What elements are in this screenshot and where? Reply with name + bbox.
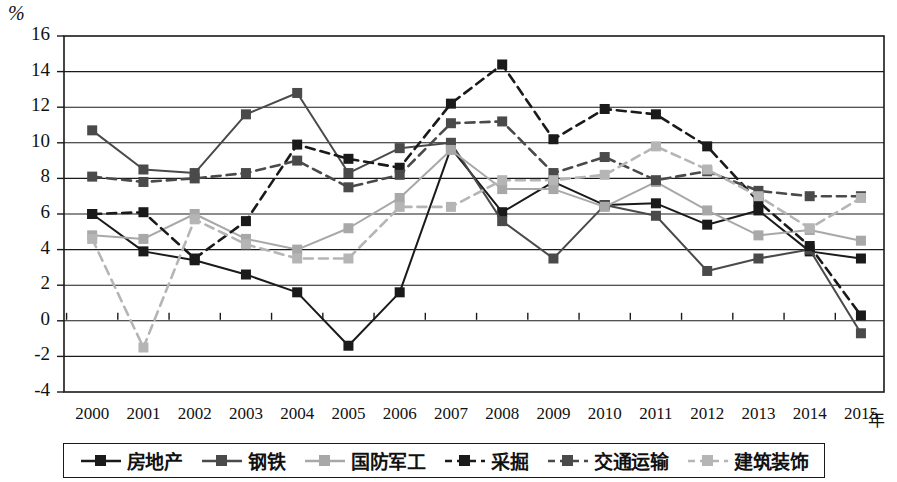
data-point-marker <box>343 168 353 178</box>
data-point-marker <box>343 182 353 192</box>
data-point-marker <box>497 184 507 194</box>
data-point-marker <box>87 125 97 135</box>
data-point-marker <box>651 141 661 151</box>
x-tick-label: 2005 <box>322 404 374 424</box>
data-point-marker <box>138 207 148 217</box>
x-tick-label: 2003 <box>220 404 272 424</box>
data-point-marker <box>395 287 405 297</box>
legend-label: 国防军工 <box>351 447 425 474</box>
x-tick-label: 2007 <box>425 404 477 424</box>
legend-item-4[interactable]: 采掘 <box>444 447 528 474</box>
data-point-marker <box>497 59 507 69</box>
y-tick-label: -4 <box>8 379 50 401</box>
legend-marker-icon <box>80 453 122 469</box>
data-point-marker <box>702 220 712 230</box>
data-point-marker <box>87 234 97 244</box>
data-point-marker <box>753 254 763 264</box>
x-tick-label: 2006 <box>374 404 426 424</box>
y-tick-label: 0 <box>8 308 50 330</box>
data-point-marker <box>395 193 405 203</box>
data-point-marker <box>856 328 866 338</box>
data-point-marker <box>241 109 251 119</box>
data-point-marker <box>651 109 661 119</box>
data-point-marker <box>138 343 148 353</box>
data-point-marker <box>600 202 610 212</box>
x-tick-label: 2004 <box>271 404 323 424</box>
data-point-marker <box>753 191 763 201</box>
legend-square-marker <box>562 455 573 466</box>
x-tick-label: 2001 <box>117 404 169 424</box>
data-point-marker <box>651 211 661 221</box>
data-point-marker <box>292 245 302 255</box>
y-tick-label: 6 <box>8 201 50 223</box>
data-point-marker <box>292 287 302 297</box>
data-point-marker <box>497 116 507 126</box>
x-tick-label: 2010 <box>579 404 631 424</box>
legend-square-marker <box>702 455 713 466</box>
data-point-marker <box>702 205 712 215</box>
legend-marker-icon <box>444 453 486 469</box>
data-point-marker <box>138 234 148 244</box>
data-point-marker <box>702 266 712 276</box>
x-tick-label: 2011 <box>630 404 682 424</box>
data-point-marker <box>548 134 558 144</box>
data-point-marker <box>87 209 97 219</box>
data-point-marker <box>292 156 302 166</box>
chart-legend: 房地产钢铁国防军工采掘交通运输建筑装饰 <box>63 443 825 478</box>
legend-label: 建筑装饰 <box>734 447 808 474</box>
legend-item-5[interactable]: 交通运输 <box>547 447 668 474</box>
x-tick-label: 2012 <box>681 404 733 424</box>
data-point-marker <box>446 202 456 212</box>
data-point-marker <box>395 202 405 212</box>
y-tick-label: 4 <box>8 237 50 259</box>
data-point-marker <box>702 141 712 151</box>
x-tick-label: 2013 <box>732 404 784 424</box>
line-chart-plot <box>0 0 897 440</box>
y-tick-label: 12 <box>8 94 50 116</box>
legend-square-marker <box>459 455 470 466</box>
data-point-marker <box>856 193 866 203</box>
data-point-marker <box>190 173 200 183</box>
data-point-marker <box>138 177 148 187</box>
data-point-marker <box>548 254 558 264</box>
legend-label: 钢铁 <box>248 447 285 474</box>
legend-item-3[interactable]: 国防军工 <box>304 447 425 474</box>
legend-item-1[interactable]: 房地产 <box>80 447 183 474</box>
data-point-marker <box>241 270 251 280</box>
legend-marker-icon <box>201 453 243 469</box>
data-point-marker <box>753 205 763 215</box>
x-tick-label: 2014 <box>784 404 836 424</box>
data-point-marker <box>343 254 353 264</box>
data-point-marker <box>651 175 661 185</box>
legend-square-marker <box>319 455 330 466</box>
data-point-marker <box>87 172 97 182</box>
data-point-marker <box>548 184 558 194</box>
x-tick-label: 2000 <box>66 404 118 424</box>
legend-item-6[interactable]: 建筑装饰 <box>687 447 808 474</box>
data-point-marker <box>395 143 405 153</box>
y-tick-label: 2 <box>8 272 50 294</box>
legend-marker-icon <box>304 453 346 469</box>
legend-square-marker <box>95 455 106 466</box>
data-point-marker <box>343 341 353 351</box>
data-point-marker <box>446 145 456 155</box>
x-tick-label: 2008 <box>476 404 528 424</box>
data-point-marker <box>446 99 456 109</box>
data-point-marker <box>600 104 610 114</box>
chart-container: % 1614121086420-2-4 20002001200220032004… <box>0 0 897 482</box>
legend-item-2[interactable]: 钢铁 <box>201 447 285 474</box>
data-point-marker <box>548 175 558 185</box>
data-point-marker <box>292 254 302 264</box>
data-point-marker <box>651 198 661 208</box>
data-point-marker <box>600 152 610 162</box>
data-point-marker <box>343 223 353 233</box>
data-point-marker <box>856 236 866 246</box>
data-point-marker <box>241 168 251 178</box>
x-tick-label: 2002 <box>169 404 221 424</box>
legend-label: 采掘 <box>491 447 528 474</box>
data-point-marker <box>497 175 507 185</box>
data-point-marker <box>241 239 251 249</box>
data-point-marker <box>753 230 763 240</box>
y-tick-label: 16 <box>8 23 50 45</box>
data-point-marker <box>600 170 610 180</box>
